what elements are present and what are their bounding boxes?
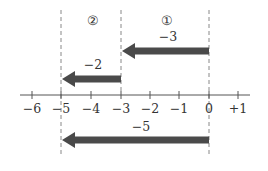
arrow-2-label: −2 <box>84 59 102 72</box>
arrow-result <box>62 132 209 148</box>
region-label-2: ② <box>87 14 99 27</box>
tick-label: 0 <box>205 103 213 116</box>
tick-label: −3 <box>112 103 130 116</box>
arrow-1 <box>122 43 209 59</box>
tick-label: −5 <box>52 103 70 116</box>
arrow-1-label: −3 <box>159 31 177 44</box>
tick-label: −1 <box>170 103 188 116</box>
arrow-result-label: −5 <box>132 121 150 134</box>
number-line-diagram <box>0 0 268 171</box>
tick-label: +1 <box>229 103 247 116</box>
tick-label: −6 <box>23 103 41 116</box>
tick-label: −4 <box>82 103 100 116</box>
region-label-1: ① <box>161 14 173 27</box>
tick-label: −2 <box>141 103 159 116</box>
arrow-2 <box>62 71 121 87</box>
